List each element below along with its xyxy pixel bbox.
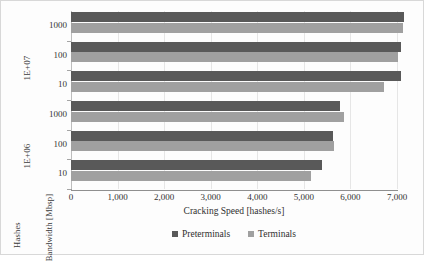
y-tick-mark-5: [67, 189, 71, 190]
bar-group: [71, 159, 397, 189]
x-tick-label-2000: 2,000: [144, 192, 184, 202]
bar-preterminals-5[interactable]: [71, 160, 322, 170]
x-tick-label-4000: 4,000: [237, 192, 277, 202]
bar-preterminals-3[interactable]: [71, 101, 340, 111]
bar-terminals-1[interactable]: [71, 52, 398, 62]
y-axis-outer-title: Hashes: [12, 205, 22, 265]
legend-item-terminals[interactable]: Terminals: [248, 229, 296, 239]
bar-group: [71, 130, 397, 160]
y-tick-mark-2: [67, 100, 71, 101]
bar-terminals-0[interactable]: [71, 23, 403, 33]
x-tick-label-6000: 6,000: [330, 192, 370, 202]
legend-label-preterminals: Preterminals: [182, 229, 230, 239]
y-tick-label-3: 1000: [27, 109, 67, 119]
bar-group: [71, 70, 397, 100]
legend-swatch-preterminals: [172, 231, 178, 237]
x-tick-label-7000: 7,000: [377, 192, 417, 202]
x-tick-label-5000: 5,000: [284, 192, 324, 202]
plot-area: [71, 11, 397, 189]
bar-terminals-3[interactable]: [71, 112, 344, 122]
y-tick-label-2: 10: [27, 79, 67, 89]
bar-preterminals-4[interactable]: [71, 131, 333, 141]
bar-preterminals-2[interactable]: [71, 71, 401, 81]
y-tick-mark-0: [67, 41, 71, 42]
bar-preterminals-1[interactable]: [71, 42, 401, 52]
bar-terminals-2[interactable]: [71, 82, 384, 92]
legend-swatch-terminals: [248, 231, 254, 237]
y-tick-mark-1: [67, 70, 71, 71]
x-axis-line: [71, 190, 398, 191]
y-tick-label-4: 100: [27, 139, 67, 149]
bar-terminals-4[interactable]: [71, 141, 334, 151]
bar-group: [71, 41, 397, 71]
gridline-7000: [397, 11, 398, 189]
bar-group: [71, 100, 397, 130]
x-tick-label-0: 0: [51, 192, 91, 202]
x-tick-label-3000: 3,000: [191, 192, 231, 202]
y-tick-label-0: 1000: [27, 20, 67, 30]
legend-item-preterminals[interactable]: Preterminals: [172, 229, 230, 239]
x-tick-label-1000: 1,000: [98, 192, 138, 202]
y-axis-inner-title: Bandwidth [Mbsp]: [45, 193, 54, 263]
chart-legend: Preterminals Terminals: [71, 229, 397, 239]
bar-preterminals-0[interactable]: [71, 12, 404, 22]
legend-label-terminals: Terminals: [258, 229, 296, 239]
y-tick-mark-3: [67, 130, 71, 131]
y-tick-mark-4: [67, 159, 71, 160]
bar-group: [71, 11, 397, 41]
x-axis-title: Cracking Speed [hashes/s]: [71, 206, 397, 216]
bar-terminals-5[interactable]: [71, 171, 311, 181]
y-tick-label-5: 10: [27, 168, 67, 178]
y-tick-label-1: 100: [27, 50, 67, 60]
